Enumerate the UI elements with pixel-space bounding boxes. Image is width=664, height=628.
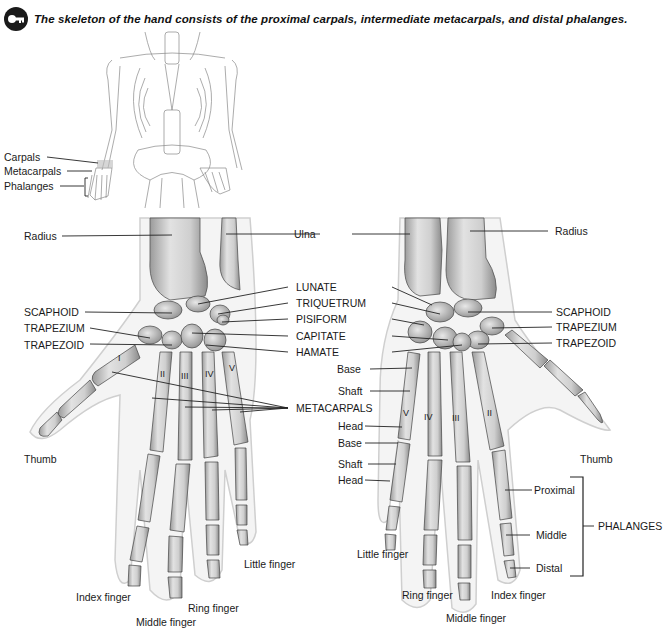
label-shaft-metacarpal: Shaft bbox=[338, 385, 363, 397]
label-thumb-left: Thumb bbox=[24, 453, 57, 465]
numeral-ii-right: II bbox=[487, 407, 492, 419]
numeral-iii-left: III bbox=[181, 370, 189, 382]
label-ring-finger-left: Ring finger bbox=[188, 602, 239, 614]
label-trapezoid-right: TRAPEZOID bbox=[556, 337, 616, 349]
label-middle-finger-left: Middle finger bbox=[136, 616, 196, 628]
numeral-iii-right: III bbox=[452, 412, 460, 424]
left-hand bbox=[30, 218, 320, 600]
label-index-finger-right: Index finger bbox=[491, 589, 546, 601]
label-trapezium-left: TRAPEZIUM bbox=[24, 322, 85, 334]
label-metacarpals: Metacarpals bbox=[4, 165, 61, 177]
numeral-v-left: V bbox=[229, 362, 235, 374]
label-middle: Middle bbox=[536, 529, 567, 541]
numeral-ii-left: II bbox=[160, 368, 165, 380]
numeral-v-right: V bbox=[403, 407, 409, 419]
numeral-iv-right: IV bbox=[424, 411, 433, 423]
label-proximal: Proximal bbox=[534, 484, 575, 496]
label-shaft-phalanx: Shaft bbox=[338, 458, 363, 470]
label-head-metacarpal: Head bbox=[338, 420, 363, 432]
label-radius-right: Radius bbox=[555, 225, 588, 237]
label-trapezoid-left: TRAPEZOID bbox=[24, 339, 84, 351]
label-triquetrum: TRIQUETRUM bbox=[296, 297, 366, 309]
label-phalanges-group: PHALANGES bbox=[598, 520, 662, 532]
label-head-phalanx: Head bbox=[338, 474, 363, 486]
label-lunate: LUNATE bbox=[296, 281, 337, 293]
label-ulna: Ulna bbox=[294, 228, 316, 240]
label-distal: Distal bbox=[536, 562, 562, 574]
label-base-phalanx: Base bbox=[338, 437, 362, 449]
overview-skeleton bbox=[88, 32, 242, 208]
label-trapezium-right: TRAPEZIUM bbox=[556, 321, 617, 333]
label-capitate: CAPITATE bbox=[296, 330, 346, 342]
label-little-finger-left: Little finger bbox=[244, 558, 295, 570]
label-hamate: HAMATE bbox=[296, 346, 339, 358]
label-base-metacarpal: Base bbox=[337, 363, 361, 375]
label-metacarpals-group: METACARPALS bbox=[296, 402, 373, 414]
numeral-iv-left: IV bbox=[205, 368, 214, 380]
label-carpals: Carpals bbox=[4, 151, 40, 163]
label-phalanges: Phalanges bbox=[4, 180, 54, 192]
label-little-finger-right: Little finger bbox=[357, 548, 408, 560]
label-ring-finger-right: Ring finger bbox=[402, 589, 453, 601]
label-pisiform: PISIFORM bbox=[296, 313, 347, 325]
label-middle-finger-right: Middle finger bbox=[446, 612, 506, 624]
label-index-finger-left: Index finger bbox=[76, 591, 131, 603]
numeral-i-left: I bbox=[118, 352, 121, 364]
label-radius-left: Radius bbox=[24, 230, 57, 242]
label-scaphoid-left: SCAPHOID bbox=[24, 306, 79, 318]
label-thumb-right: Thumb bbox=[580, 453, 613, 465]
label-scaphoid-right: SCAPHOID bbox=[556, 306, 611, 318]
